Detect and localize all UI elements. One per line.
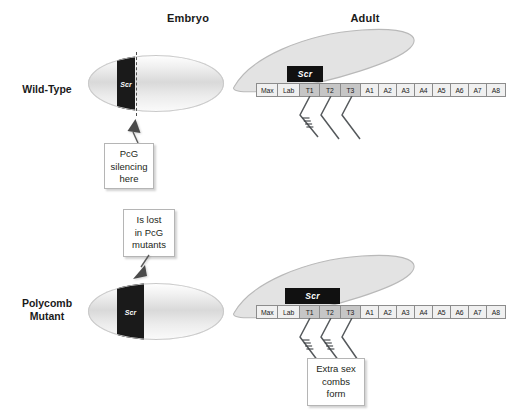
wild-type-embryo-scr-label: Scr	[120, 80, 131, 87]
polycomb-mutant-segment-a7: A7	[469, 306, 487, 318]
wild-type-segment-a2: A2	[379, 84, 397, 96]
figure-canvas: Embryo Adult Wild-Type Scr PcG silencing…	[0, 0, 517, 419]
wild-type-segment-a8: A8	[487, 84, 505, 96]
polycomb-mutant-embryo: Scr	[88, 283, 224, 340]
wild-type-segment-lab: Lab	[278, 84, 299, 96]
wild-type-embryo-parasegment-boundary	[136, 52, 137, 116]
polycomb-mutant-segment-bar: MaxLabT1T2T3A1A2A3A4A5A6A7A8	[256, 305, 506, 319]
polycomb-mutant-segment-a8: A8	[487, 306, 505, 318]
column-header-embryo: Embryo	[148, 12, 228, 24]
wild-type-embryo-scr-band: Scr	[117, 55, 135, 112]
wild-type-leg-t3	[342, 96, 360, 139]
wild-type-segment-max: Max	[257, 84, 278, 96]
is-lost-arrow	[123, 253, 163, 287]
polycomb-mutant-scr-box: Scr	[285, 288, 340, 304]
callout-is-lost-in-pcg-mutants: Is lost in PcG mutants	[123, 209, 175, 257]
polycomb-mutant-segment-t3: T3	[341, 306, 361, 318]
polycomb-mutant-segment-a4: A4	[415, 306, 433, 318]
polycomb-mutant-segment-t2: T2	[320, 306, 340, 318]
polycomb-mutant-embryo-scr-band: Scr	[117, 283, 144, 340]
polycomb-mutant-leg-t1	[300, 318, 318, 361]
wild-type-segment-a1: A1	[361, 84, 379, 96]
polycomb-mutant-segment-a5: A5	[433, 306, 451, 318]
row-label-wild-type: Wild-Type	[8, 83, 86, 96]
polycomb-mutant-segment-a6: A6	[451, 306, 469, 318]
wild-type-leg-t1	[300, 96, 318, 137]
pcg-silencing-arrow	[104, 110, 152, 146]
polycomb-mutant-segment-a2: A2	[379, 306, 397, 318]
polycomb-mutant-embryo-scr-label: Scr	[125, 308, 136, 315]
callout-extra-sex-combs-form: Extra sex combs form	[307, 358, 365, 406]
column-header-adult: Adult	[325, 12, 405, 24]
polycomb-mutant-segment-max: Max	[257, 306, 278, 318]
polycomb-mutant-segment-a1: A1	[361, 306, 379, 318]
wild-type-leg-t2	[321, 96, 339, 139]
wild-type-segment-a3: A3	[397, 84, 415, 96]
wild-type-segment-a7: A7	[469, 84, 487, 96]
wild-type-segment-a5: A5	[433, 84, 451, 96]
wild-type-segment-t1: T1	[300, 84, 320, 96]
wild-type-scr-box: Scr	[287, 66, 323, 82]
polycomb-mutant-segment-t1: T1	[300, 306, 320, 318]
wild-type-segment-a6: A6	[451, 84, 469, 96]
polycomb-mutant-segment-lab: Lab	[278, 306, 299, 318]
wild-type-embryo: Scr	[88, 55, 224, 112]
wild-type-segment-t2: T2	[320, 84, 340, 96]
polycomb-mutant-leg-t3	[342, 318, 360, 363]
wild-type-legs	[296, 96, 376, 141]
wild-type-segment-t3: T3	[341, 84, 361, 96]
polycomb-mutant-scr-box-label: Scr	[305, 291, 319, 301]
wild-type-segment-bar: MaxLabT1T2T3A1A2A3A4A5A6A7A8	[256, 83, 506, 97]
callout-pcg-silencing: PcG silencing here	[104, 143, 154, 189]
wild-type-segment-a4: A4	[415, 84, 433, 96]
row-label-polycomb-mutant: Polycomb Mutant	[8, 297, 86, 323]
polycomb-mutant-leg-t2	[321, 318, 339, 361]
wild-type-scr-box-label: Scr	[298, 69, 312, 79]
polycomb-mutant-segment-a3: A3	[397, 306, 415, 318]
